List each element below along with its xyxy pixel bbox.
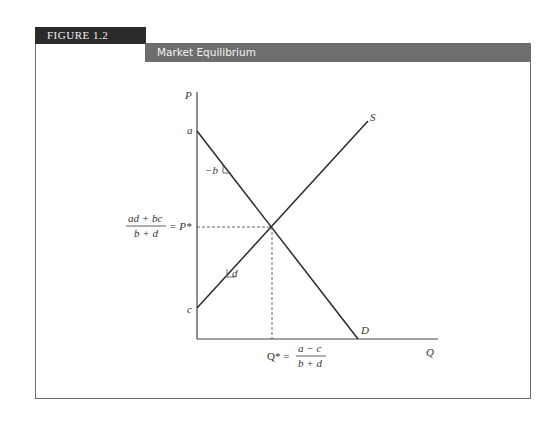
p-star-numerator: ad + bc bbox=[128, 212, 162, 224]
supply-slope-label: d bbox=[232, 267, 238, 279]
p-star-denominator: b + d bbox=[134, 227, 158, 239]
equilibrium-diagram: P Q D a S c −b d ad + bc b + d = P* Q* =… bbox=[0, 0, 557, 425]
q-star-prefix: Q* = bbox=[267, 350, 289, 362]
supply-curve bbox=[197, 121, 368, 308]
demand-slope-label: −b bbox=[205, 164, 218, 176]
p-star-suffix: = P* bbox=[169, 220, 192, 232]
demand-curve bbox=[197, 131, 358, 339]
intercept-c-label: c bbox=[187, 303, 192, 315]
y-axis-label: P bbox=[184, 89, 192, 101]
supply-label: S bbox=[370, 111, 376, 123]
demand-label: D bbox=[360, 324, 369, 336]
x-axis-label: Q bbox=[426, 346, 434, 358]
intercept-a-label: a bbox=[187, 124, 193, 136]
q-star-denominator: b + d bbox=[298, 357, 322, 369]
q-star-numerator: a − c bbox=[298, 342, 321, 354]
